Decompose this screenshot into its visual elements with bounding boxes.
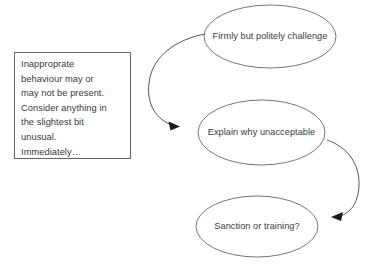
diagram-canvas [0, 0, 378, 267]
node-shape-explain-why-unacceptable[interactable] [198, 100, 325, 165]
connector-explain-to-sanction [327, 140, 359, 216]
connector-challenge-to-explain [149, 34, 205, 125]
arrowhead-explain-to-sanction [331, 212, 343, 221]
node-shape-sanction-or-training[interactable] [196, 196, 318, 257]
node-shape-firmly-but-politely-challenge[interactable] [204, 5, 336, 68]
arrowhead-challenge-to-explain [169, 122, 181, 131]
note-box-shape[interactable] [15, 53, 131, 159]
flowchart-diagram: Inapproprate behaviour may or may not be… [0, 0, 378, 267]
